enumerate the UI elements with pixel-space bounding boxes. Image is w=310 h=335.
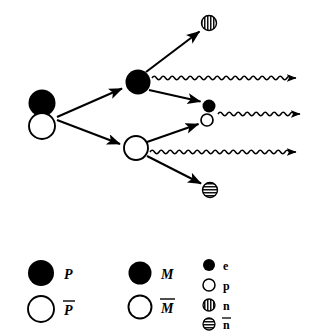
neutron-product-top (202, 16, 217, 31)
legend-Mbar-label: M (160, 301, 174, 316)
node-e-filled-circle (203, 100, 216, 113)
node-Pbar-open-circle (29, 113, 55, 139)
node-M-filled-circle (126, 70, 151, 95)
legend-Pbar-label: P (64, 303, 73, 318)
legend-n-label: n (223, 299, 230, 313)
legend-e-filled-circle (203, 259, 215, 271)
legend-nbar-striped-circle (203, 318, 215, 330)
node-p-open-circle (201, 114, 213, 126)
legend-p-open-circle (203, 279, 215, 291)
legend-Pbar-open-circle (28, 296, 54, 322)
legend-n-split-circle (203, 299, 215, 311)
node-nbar-striped-circle (203, 183, 218, 198)
legend-Mbar-open-circle (129, 296, 152, 319)
legend-e-label: e (223, 259, 229, 273)
node-n-split-circle (202, 16, 217, 31)
legend-P-label: P (64, 267, 73, 282)
legend-M-filled-circle (129, 262, 152, 285)
legend-p-label: p (223, 279, 230, 293)
legend-nbar-label: n (223, 318, 230, 332)
figure-root: P P M M e p n (0, 0, 310, 335)
legend-M-label: M (160, 267, 174, 282)
legend-P-filled-circle (28, 260, 54, 286)
antineutron-product-bottom (203, 183, 218, 198)
particle-cascade-figure: P P M M e p n (0, 0, 310, 335)
node-Mbar-open-circle (124, 136, 148, 160)
